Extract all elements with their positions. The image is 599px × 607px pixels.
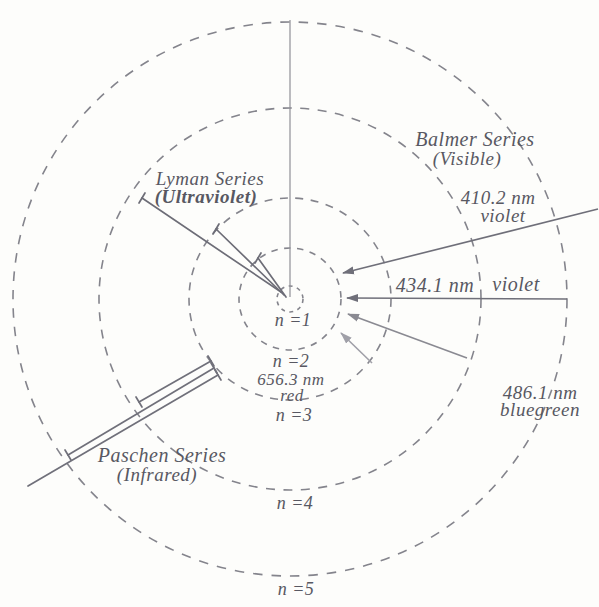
- balmer-arrow-486nm: [348, 314, 467, 358]
- paschen-line-start-tick-n5: [65, 450, 71, 460]
- orbit-label-n2: n =2: [273, 352, 310, 370]
- lyman-transition-line-n4-to-n1: [142, 198, 281, 292]
- lyman-transition-line-n2-to-n1: [258, 258, 286, 297]
- diagram-canvas: [0, 0, 599, 607]
- orbit-label-n1: n =1: [275, 311, 312, 329]
- h-beta-color-name: bluegreen: [500, 400, 580, 419]
- lyman-series-band: (Ultraviolet): [155, 187, 258, 206]
- balmer-series-band: (Visible): [433, 149, 502, 168]
- paschen-transition-line-n5-to-n3: [68, 368, 214, 455]
- paschen-series-band: (Infrared): [117, 465, 197, 484]
- paschen-transition-line-n4-to-n3: [139, 361, 211, 402]
- balmer-series-name: Balmer Series: [415, 129, 534, 149]
- bohr-orbit-diagram: Lyman Series (Ultraviolet) Balmer Series…: [0, 0, 599, 607]
- paschen-series-name: Paschen Series: [98, 445, 227, 465]
- orbit-label-n4: n =4: [277, 494, 314, 512]
- orbit-label-n3: n =3: [276, 406, 313, 424]
- h-delta-color-name: violet: [480, 206, 525, 225]
- orbit-label-n5: n =5: [278, 580, 315, 598]
- h-alpha-color-name: red: [280, 387, 304, 404]
- balmer-arrow-410nm: [343, 209, 598, 273]
- h-gamma-wavelength: 434.1 nm: [396, 275, 474, 295]
- lyman-line-end-tick-n4: [139, 193, 145, 203]
- lyman-transition-line-n3-to-n1: [216, 229, 284, 295]
- paschen-line-start-tick-n4: [136, 397, 142, 407]
- balmer-arrow-656nm: [341, 333, 372, 363]
- h-gamma-color-name: violet: [492, 274, 539, 294]
- balmer-arrow-434nm: [347, 298, 567, 299]
